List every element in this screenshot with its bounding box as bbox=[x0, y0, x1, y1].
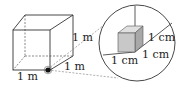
small-edge-label-width: 1 cm bbox=[111, 54, 139, 67]
edge-label-width: 1 m bbox=[17, 70, 38, 83]
edge-label-depth: 1 m bbox=[64, 60, 85, 73]
small-cube bbox=[118, 26, 143, 52]
small-edge-label-height: 1 cm bbox=[142, 48, 170, 61]
cube-volume-diagram: 1 m 1 m 1 m 1 cm 1 cm 1 cm bbox=[0, 0, 183, 87]
corner-dot bbox=[45, 67, 50, 72]
edge-label-height: 1 m bbox=[72, 31, 93, 44]
small-edge-label-depth: 1 cm bbox=[148, 31, 176, 44]
